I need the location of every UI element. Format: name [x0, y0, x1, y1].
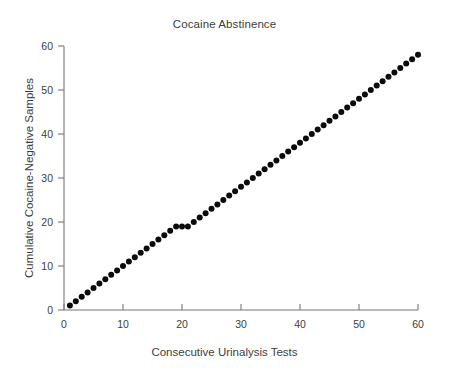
- data-point: [67, 303, 73, 309]
- y-tick-label: 10: [41, 260, 53, 272]
- data-point: [338, 109, 344, 115]
- data-point: [256, 171, 262, 177]
- data-point: [273, 157, 279, 163]
- data-point: [374, 83, 380, 89]
- data-point: [120, 263, 126, 269]
- data-point: [179, 223, 185, 229]
- data-point: [232, 188, 238, 194]
- data-point: [356, 96, 362, 102]
- data-point: [108, 272, 114, 278]
- data-point: [397, 65, 403, 71]
- data-point: [415, 52, 421, 58]
- data-point: [185, 223, 191, 229]
- data-point: [155, 237, 161, 243]
- data-point: [209, 206, 215, 212]
- data-point: [126, 259, 132, 265]
- data-point: [197, 215, 203, 221]
- data-point: [380, 78, 386, 84]
- data-point: [250, 175, 256, 181]
- data-point: [144, 245, 150, 251]
- data-point: [297, 140, 303, 146]
- data-point: [138, 250, 144, 256]
- data-point: [291, 144, 297, 150]
- data-point: [85, 289, 91, 295]
- data-point: [244, 179, 250, 185]
- data-point: [391, 69, 397, 75]
- data-point: [350, 100, 356, 106]
- data-point: [114, 267, 120, 273]
- data-point: [403, 61, 409, 67]
- data-points-group: [67, 52, 421, 309]
- data-point: [362, 91, 368, 97]
- x-tick-label: 30: [235, 318, 247, 330]
- data-point: [386, 74, 392, 80]
- data-point: [303, 135, 309, 141]
- data-point: [167, 228, 173, 234]
- x-tick-label: 60: [412, 318, 424, 330]
- data-point: [161, 232, 167, 238]
- y-tick-label: 20: [41, 216, 53, 228]
- data-point: [191, 219, 197, 225]
- data-point: [344, 105, 350, 111]
- data-point: [332, 113, 338, 119]
- data-point: [321, 122, 327, 128]
- data-point: [220, 197, 226, 203]
- data-point: [132, 254, 138, 260]
- data-point: [268, 162, 274, 168]
- x-ticks-group: 0102030405060: [61, 304, 424, 330]
- y-tick-label: 0: [47, 304, 53, 316]
- x-tick-label: 20: [176, 318, 188, 330]
- data-point: [73, 298, 79, 304]
- data-point: [102, 276, 108, 282]
- y-ticks-group: 0102030405060: [41, 40, 64, 316]
- data-point: [285, 149, 291, 155]
- data-point: [173, 223, 179, 229]
- data-point: [96, 281, 102, 287]
- data-point: [262, 166, 268, 172]
- y-tick-label: 30: [41, 172, 53, 184]
- data-point: [409, 56, 415, 62]
- data-point: [327, 118, 333, 124]
- data-point: [368, 87, 374, 93]
- data-point: [315, 127, 321, 133]
- data-point: [238, 184, 244, 190]
- y-tick-label: 50: [41, 84, 53, 96]
- chart-figure: Cocaine Abstinence Cumulative Cocaine-Ne…: [0, 0, 449, 379]
- x-tick-label: 0: [61, 318, 67, 330]
- data-point: [150, 241, 156, 247]
- x-tick-label: 50: [353, 318, 365, 330]
- scatter-plot-canvas: 0102030405060 0102030405060: [0, 0, 449, 379]
- data-point: [79, 294, 85, 300]
- y-tick-label: 60: [41, 40, 53, 52]
- data-point: [214, 201, 220, 207]
- data-point: [309, 131, 315, 137]
- data-point: [279, 153, 285, 159]
- data-point: [91, 285, 97, 291]
- x-tick-label: 10: [117, 318, 129, 330]
- data-point: [226, 193, 232, 199]
- y-tick-label: 40: [41, 128, 53, 140]
- data-point: [203, 210, 209, 216]
- x-tick-label: 40: [294, 318, 306, 330]
